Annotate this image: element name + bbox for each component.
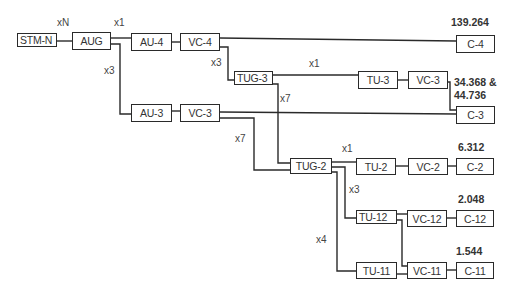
rate-c3-line2: 44.736 — [454, 89, 486, 102]
node-label: VC-2 — [416, 161, 439, 173]
node-label: C-3 — [467, 109, 483, 121]
mult-tug3-tu3: x1 — [309, 58, 320, 69]
node-c-12: C-12 — [456, 210, 494, 227]
node-c-2: C-2 — [456, 158, 494, 175]
mult-aug-au4: x1 — [114, 17, 125, 28]
rate-c4: 139.264 — [451, 16, 489, 29]
node-tu-3: TU-3 — [358, 71, 398, 89]
mult-tug3-tug2: x7 — [280, 93, 291, 104]
node-vc-11: VC-11 — [407, 262, 447, 279]
node-au-4: AU-4 — [131, 33, 172, 51]
node-tu-11: TU-11 — [356, 262, 397, 279]
node-label: C-4 — [467, 38, 483, 50]
node-c-3: C-3 — [456, 106, 495, 124]
node-label: VC-4 — [188, 36, 211, 48]
node-label: TU-12 — [359, 211, 387, 223]
node-vc-4: VC-4 — [180, 33, 220, 51]
node-tu-12: TU-12 — [356, 210, 397, 224]
node-c-11: C-11 — [456, 262, 494, 279]
mult-tug2-tu11: x4 — [316, 234, 327, 245]
node-label: VC-3 — [188, 107, 211, 119]
node-label: C-11 — [464, 265, 485, 277]
node-label: AU-4 — [140, 36, 163, 48]
node-label: TUG-2 — [296, 160, 327, 172]
rate-c3-line1: 34.368 & — [454, 76, 497, 89]
node-tug-2: TUG-2 — [290, 158, 332, 174]
mult-tug2-tu12: x3 — [349, 184, 360, 195]
node-stm-n: STM-N — [17, 33, 57, 47]
node-tug-3: TUG-3 — [234, 71, 273, 85]
mult-stm-aug: xN — [57, 17, 69, 28]
node-label: AU-3 — [140, 107, 163, 119]
node-label: TU-2 — [365, 161, 388, 173]
node-label: TU-11 — [363, 265, 390, 277]
mult-aug-au3: x3 — [104, 65, 115, 76]
mult-tug2-tu2: x1 — [342, 143, 353, 154]
node-label: STM-N — [20, 34, 52, 46]
node-label: C-2 — [467, 161, 483, 173]
node-tu-2: TU-2 — [356, 158, 396, 175]
node-label: VC-12 — [413, 213, 442, 225]
rate-c2: 6.312 — [458, 141, 484, 154]
node-vc-12: VC-12 — [407, 210, 447, 227]
rate-c11: 1.544 — [456, 245, 482, 258]
node-vc-3-top: VC-3 — [408, 71, 448, 89]
mult-vc4-tug3: x3 — [211, 57, 222, 68]
node-label: AUG — [80, 35, 102, 47]
rate-c12: 2.048 — [458, 193, 484, 206]
node-au-3: AU-3 — [131, 104, 172, 122]
node-aug: AUG — [72, 32, 111, 50]
node-label: C-12 — [464, 213, 486, 225]
node-vc-2: VC-2 — [408, 158, 448, 175]
node-label: TUG-3 — [237, 72, 268, 84]
node-label: TU-3 — [367, 74, 390, 86]
node-vc-3-bottom: VC-3 — [180, 104, 220, 122]
mult-vc3-tug2: x7 — [235, 133, 246, 144]
node-c-4: C-4 — [456, 35, 495, 53]
node-label: VC-3 — [416, 74, 439, 86]
node-label: VC-11 — [413, 265, 441, 277]
